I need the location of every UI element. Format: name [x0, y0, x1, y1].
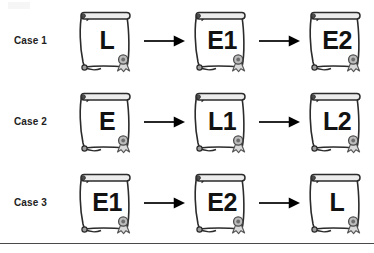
- document-node[interactable]: L: [70, 0, 144, 81]
- certificate-scroll-icon: [300, 166, 374, 240]
- certificate-scroll-icon: [70, 85, 144, 159]
- case-label: Case 2: [14, 117, 70, 127]
- arrow-right-icon: [144, 33, 185, 49]
- figure-canvas: Case 1 L: [0, 0, 374, 253]
- certificate-scroll-icon: [185, 4, 259, 78]
- certificate-scroll-icon: [185, 166, 259, 240]
- arrow-right-icon: [144, 114, 185, 130]
- flow-connector: [144, 0, 185, 81]
- document-chain: L: [70, 0, 374, 81]
- arrow-right-icon: [259, 195, 300, 211]
- flow-connector: [259, 0, 300, 81]
- document-node[interactable]: E2: [185, 162, 259, 243]
- flow-connector: [259, 162, 300, 243]
- case-row: Case 2 E: [0, 81, 374, 162]
- certificate-scroll-icon: [300, 85, 374, 159]
- document-chain: E1: [70, 162, 374, 243]
- document-node[interactable]: E1: [185, 0, 259, 81]
- flow-connector: [144, 81, 185, 162]
- document-node[interactable]: E: [70, 81, 144, 162]
- document-node[interactable]: E2: [300, 0, 374, 81]
- case-row: Case 3 E1: [0, 162, 374, 243]
- footer-divider: [0, 243, 374, 244]
- case-label: Case 1: [14, 36, 70, 46]
- case-label: Case 3: [14, 198, 70, 208]
- document-chain: E: [70, 81, 374, 162]
- certificate-scroll-icon: [70, 4, 144, 78]
- case-rows-container: Case 1 L: [0, 0, 374, 243]
- arrow-right-icon: [144, 195, 185, 211]
- document-node[interactable]: E1: [70, 162, 144, 243]
- arrow-right-icon: [259, 33, 300, 49]
- flow-connector: [259, 81, 300, 162]
- arrow-right-icon: [259, 114, 300, 130]
- certificate-scroll-icon: [70, 166, 144, 240]
- document-node[interactable]: L: [300, 162, 374, 243]
- case-row: Case 1 L: [0, 0, 374, 81]
- document-node[interactable]: L2: [300, 81, 374, 162]
- flow-connector: [144, 162, 185, 243]
- certificate-scroll-icon: [300, 4, 374, 78]
- document-node[interactable]: L1: [185, 81, 259, 162]
- certificate-scroll-icon: [185, 85, 259, 159]
